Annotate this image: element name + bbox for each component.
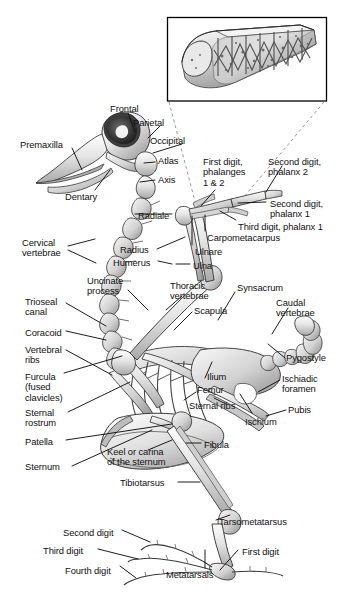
label-first-digit-phalanges: First digit, phalanges 1 & 2 bbox=[203, 157, 245, 188]
label-ulnare: Ulnare bbox=[195, 247, 222, 257]
label-vertebral-ribs: Vertebral ribs bbox=[25, 345, 62, 366]
label-pubis: Pubis bbox=[288, 405, 311, 415]
label-premaxilla: Premaxilla bbox=[20, 140, 63, 150]
label-carpometacarpus: Carpometacarpus bbox=[207, 233, 280, 243]
second-digit-phalanx-1-bone bbox=[231, 191, 266, 207]
label-fibula: Fibula bbox=[204, 440, 229, 450]
label-cervical-vertebrae: Cervical vertebrae bbox=[22, 238, 61, 259]
label-caudal-vertebrae: Caudal vertebrae bbox=[276, 298, 315, 319]
label-ilium: Ilium bbox=[207, 372, 226, 382]
label-dentary: Dentary bbox=[65, 192, 97, 202]
third-digit-bone bbox=[228, 207, 248, 216]
label-synsacrum: Synsacrum bbox=[237, 283, 283, 293]
label-femur: Femur bbox=[197, 385, 224, 395]
label-atlas: Atlas bbox=[158, 156, 178, 166]
label-ulna: Ulna bbox=[193, 261, 212, 271]
label-fourth-digit: Fourth digit bbox=[65, 566, 111, 576]
label-ischiadic-foramen: Ischiadic foramen bbox=[282, 374, 318, 395]
label-parietal: Parietal bbox=[133, 118, 164, 128]
label-radiale: Radiale bbox=[138, 211, 169, 221]
label-occipital: Occipital bbox=[150, 136, 185, 146]
label-ischium: Ischium bbox=[245, 417, 277, 427]
label-sternum: Sternum bbox=[25, 462, 60, 472]
label-sternal-ribs: Sternal ribs bbox=[189, 401, 235, 411]
label-tarsometatarsus: Tarsometatarsus bbox=[219, 517, 287, 527]
label-second-digit: Second digit bbox=[63, 528, 113, 538]
label-scapula: Scapula bbox=[194, 306, 227, 316]
label-first-digit: First digit bbox=[242, 547, 279, 557]
pygostyle-bone bbox=[295, 316, 315, 335]
label-uncinate-process: Uncinate process bbox=[87, 276, 123, 297]
inset-connector-lines bbox=[169, 102, 324, 205]
label-humerus: Humerus bbox=[113, 258, 150, 268]
label-trioseal-canal: Trioseal canal bbox=[25, 297, 57, 318]
label-third-digit-phalanx-1: Third digit, phalanx 1 bbox=[238, 222, 323, 232]
label-patella: Patella bbox=[25, 437, 53, 447]
label-third-digit: Third digit bbox=[43, 546, 83, 556]
label-second-digit-phalanx-1: Second digit, phalanx 1 bbox=[270, 199, 323, 220]
label-pygostyle: Pygostyle bbox=[286, 353, 326, 363]
label-keel-or-carina: Keel or carina of the sternum bbox=[107, 447, 166, 468]
label-coracoid: Coracoid bbox=[25, 328, 62, 338]
label-tibiotarsus: Tibiotarsus bbox=[120, 478, 164, 488]
label-metatarsals: Metatarsals bbox=[166, 570, 213, 580]
label-furcula: Furcula (fused clavicles) bbox=[25, 372, 63, 403]
label-sternal-rostrum: Sternal rostrum bbox=[25, 408, 56, 429]
label-radius: Radius bbox=[120, 245, 149, 255]
label-frontal: Frontal bbox=[110, 104, 138, 114]
label-second-digit-phalanx-2: Second digit, phalanx 2 bbox=[268, 157, 321, 178]
label-axis: Axis bbox=[158, 175, 175, 185]
label-thoracic-vertebrae: Thoracic vertebrae bbox=[170, 281, 209, 302]
ischiadic-foramen-opening bbox=[234, 383, 257, 404]
